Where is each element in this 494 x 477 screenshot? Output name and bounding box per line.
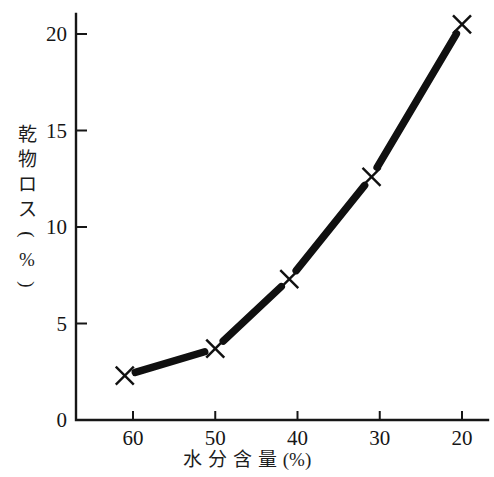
- axes-group: [76, 14, 488, 420]
- y-tick-group: 05101520: [46, 22, 87, 432]
- series-segment: [223, 287, 281, 341]
- data-point-marker: [206, 340, 224, 358]
- y-tick-label: 0: [57, 408, 68, 432]
- data-point-marker: [453, 15, 471, 33]
- axis-frame: [76, 14, 488, 420]
- y-axis-label-char: 物: [12, 147, 42, 172]
- y-tick-label: 15: [46, 119, 67, 143]
- data-point-marker: [363, 168, 381, 186]
- x-axis-label-char: 水: [183, 444, 202, 471]
- x-axis-label-char: 量: [258, 444, 277, 471]
- series-segment: [377, 34, 456, 168]
- series-line-group: [135, 34, 456, 373]
- chart-figure: 6050403020 05101520 乾物ロス(%) 水分含量(%): [0, 0, 494, 477]
- data-point-marker: [280, 270, 298, 288]
- series-segment: [296, 185, 364, 270]
- chart-plot-area: 6050403020 05101520: [0, 0, 494, 477]
- data-point-marker: [116, 367, 134, 385]
- x-axis-label-char: (%): [283, 449, 311, 471]
- y-axis-label-char: %: [12, 247, 42, 272]
- x-axis-label-char: 含: [233, 444, 252, 471]
- y-axis-label-char: ス: [12, 197, 42, 222]
- y-axis-label-char: (: [15, 220, 40, 250]
- y-axis-label-char: ): [15, 270, 40, 300]
- x-axis-label-char: 分: [208, 444, 227, 471]
- y-tick-label: 5: [57, 312, 68, 336]
- y-axis-label-char: 乾: [12, 122, 42, 147]
- series-segment: [135, 352, 204, 373]
- y-axis-label: 乾物ロス(%): [12, 122, 42, 297]
- y-tick-label: 20: [46, 22, 67, 46]
- y-axis-label-char: ロ: [12, 172, 42, 197]
- y-tick-label: 10: [46, 215, 67, 239]
- x-axis-label: 水分含量(%): [0, 444, 494, 471]
- data-marker-group: [116, 15, 471, 384]
